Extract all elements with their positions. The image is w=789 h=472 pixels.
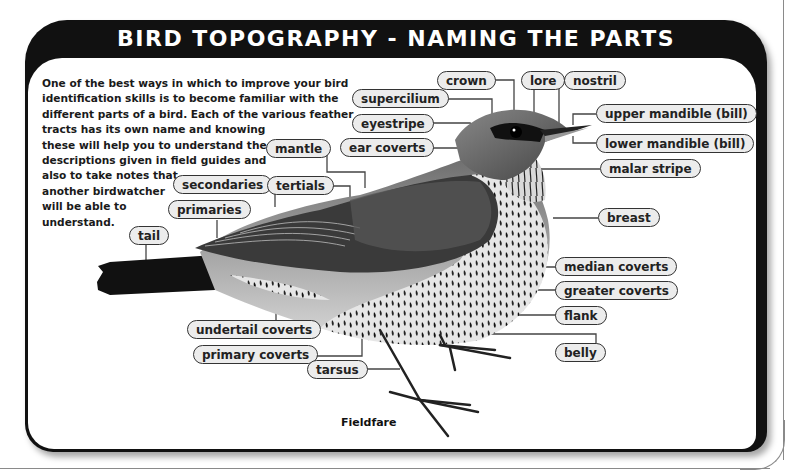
label-tertials: tertials — [267, 176, 334, 195]
label-secondaries: secondaries — [173, 175, 272, 194]
label-tail: tail — [129, 226, 169, 245]
label-primaries: primaries — [168, 200, 251, 219]
label-primary-coverts: primary coverts — [193, 345, 318, 364]
label-ear-coverts: ear coverts — [340, 138, 434, 157]
label-malar-stripe: malar stripe — [600, 159, 701, 178]
label-upper-mandible: upper mandible (bill) — [596, 104, 757, 123]
label-eyestripe: eyestripe — [352, 114, 434, 133]
label-nostril: nostril — [564, 71, 626, 90]
label-greater-coverts: greater coverts — [555, 281, 678, 300]
legs — [380, 330, 510, 436]
label-crown: crown — [437, 71, 496, 90]
label-lower-mandible: lower mandible (bill) — [596, 134, 754, 153]
label-tarsus: tarsus — [307, 360, 368, 379]
bird-illustration — [0, 0, 789, 472]
label-mantle: mantle — [266, 139, 331, 158]
label-flank: flank — [555, 306, 607, 325]
eye — [510, 126, 522, 138]
species-caption: Fieldfare — [341, 416, 396, 429]
label-lore: lore — [521, 71, 565, 90]
label-breast: breast — [598, 208, 660, 227]
label-belly: belly — [555, 343, 606, 362]
label-undertail-coverts: undertail coverts — [187, 320, 321, 339]
label-median-coverts: median coverts — [555, 257, 677, 276]
label-supercilium: supercilium — [352, 89, 449, 108]
